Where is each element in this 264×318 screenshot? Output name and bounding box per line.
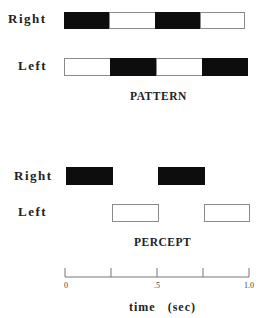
axis-title: time (sec) [129, 300, 196, 315]
tick-label-1.0: 1.0 [244, 281, 254, 290]
tick-label-0: 0 [64, 281, 68, 290]
tick-label-0.5: .5 [154, 281, 160, 290]
time-axis [0, 0, 264, 318]
